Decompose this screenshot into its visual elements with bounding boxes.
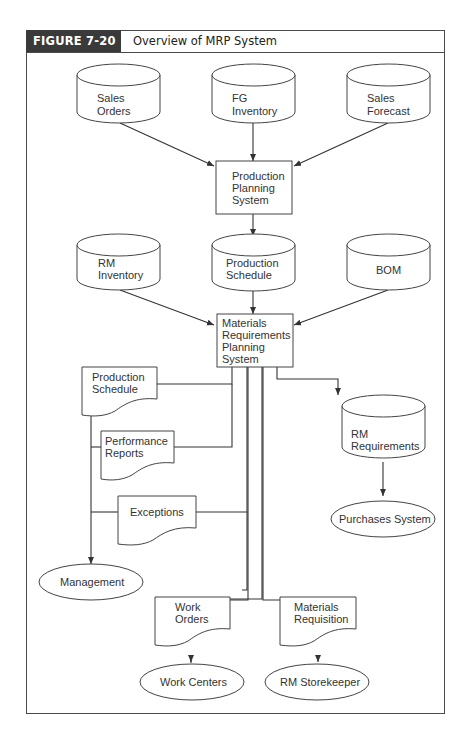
mrp-diagram: Sales Orders FG Inventory Sales Forecast…: [0, 0, 466, 735]
label: Orders: [97, 105, 131, 117]
label: Requisition: [294, 613, 348, 625]
label: RM Storekeeper: [280, 676, 360, 688]
label: Materials: [222, 317, 267, 329]
label: System: [232, 194, 269, 206]
label: Schedule: [226, 269, 272, 281]
label: Sales: [367, 92, 395, 104]
label: Forecast: [367, 105, 410, 117]
label: Sales: [97, 92, 125, 104]
bom-store: [347, 234, 430, 290]
label: Work: [175, 601, 201, 613]
label: Production: [232, 170, 285, 182]
label: Work Centers: [160, 676, 228, 688]
label: Planning: [232, 182, 275, 194]
label: RM: [351, 428, 368, 440]
label: Requirements: [222, 329, 291, 341]
label: Production: [226, 257, 279, 269]
label: FG: [232, 92, 247, 104]
label: BOM: [376, 264, 401, 276]
label: Orders: [175, 613, 209, 625]
label: Production: [92, 371, 145, 383]
label: RM: [98, 257, 115, 269]
label: Planning: [222, 341, 265, 353]
label: Materials: [294, 601, 339, 613]
label: Management: [60, 576, 124, 588]
exceptions-document: [118, 496, 196, 545]
label: Purchases System: [339, 513, 431, 525]
label: System: [222, 353, 259, 365]
rm-inventory-store: [77, 234, 160, 290]
label: Requirements: [351, 440, 420, 452]
label: Exceptions: [130, 506, 184, 518]
label: Inventory: [232, 105, 278, 117]
label: Performance: [105, 435, 168, 447]
label: Schedule: [92, 383, 138, 395]
label: Reports: [105, 447, 144, 459]
label: Inventory: [98, 269, 144, 281]
